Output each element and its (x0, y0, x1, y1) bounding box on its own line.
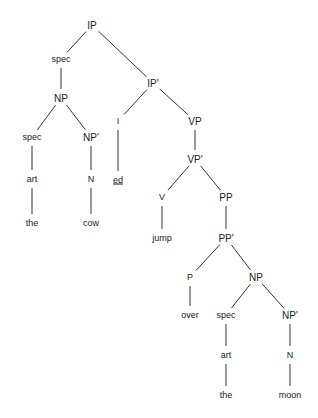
tree-node-npbar2: NP' (281, 310, 299, 321)
tree-node-np2: NP (248, 272, 264, 283)
tree-edge-np2-npbar2 (262, 284, 284, 309)
tree-edge-vpbar-v (168, 166, 189, 190)
tree-node-vp: VP (187, 116, 202, 127)
tree-node-ip: IP (86, 20, 97, 31)
tree-node-i: I (116, 116, 121, 127)
tree-node-v: V (158, 192, 166, 203)
tree-node-np1: NP (53, 93, 69, 104)
tree-node-ipbar: IP' (146, 78, 159, 89)
tree-node-art2: art (220, 350, 233, 361)
tree-edge-ipbar-i (124, 90, 147, 115)
tree-node-the1: the (25, 218, 40, 229)
tree-node-npbar1: NP' (82, 132, 100, 143)
tree-node-spec1: spec (50, 54, 71, 65)
syntax-tree-diagram: IPspecNPspecarttheNP'NcowIP'IedVPVP'Vjum… (0, 0, 318, 418)
tree-edge-np2-spec3 (232, 284, 251, 308)
tree-node-pp: PP (218, 192, 233, 203)
tree-node-cow: cow (82, 218, 100, 229)
tree-node-ed: ed (112, 175, 124, 186)
tree-edge-ip-spec1 (67, 32, 86, 53)
tree-edge-np1-spec2 (37, 105, 55, 130)
tree-edge-ppbar-p (196, 245, 220, 271)
tree-node-art1: art (26, 174, 39, 185)
tree-edge-ppbar-np2 (232, 245, 251, 270)
tree-edge-ipbar-vp (160, 89, 189, 115)
tree-node-moon: moon (278, 390, 303, 401)
tree-node-vpbar: VP' (186, 154, 203, 165)
tree-node-spec3: spec (215, 310, 236, 321)
tree-node-over: over (180, 310, 200, 321)
tree-node-n2: N (286, 350, 295, 361)
tree-node-spec2: spec (21, 132, 42, 143)
tree-edges (0, 0, 318, 418)
tree-node-n1: N (87, 174, 96, 185)
tree-node-jump: jump (151, 233, 173, 244)
tree-edge-ip-ipbar (99, 31, 147, 77)
tree-edge-np1-npbar1 (67, 105, 86, 130)
tree-node-p: P (186, 272, 194, 283)
tree-node-the2: the (219, 390, 234, 401)
tree-edge-vpbar-pp (201, 166, 221, 190)
tree-node-ppbar: PP' (217, 233, 234, 244)
